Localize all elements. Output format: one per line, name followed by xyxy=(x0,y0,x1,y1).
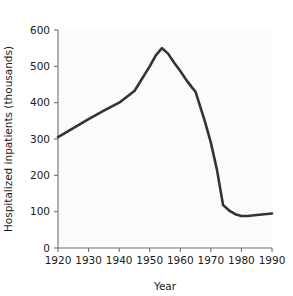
x-tick-label: 1950 xyxy=(136,254,163,266)
x-tick-label: 1980 xyxy=(228,254,255,266)
y-tick-label: 400 xyxy=(30,96,50,108)
y-axis-title: Hospitalized inpatients (thousands) xyxy=(2,46,14,232)
x-tick-label: 1930 xyxy=(75,254,102,266)
y-tick-label: 200 xyxy=(30,169,50,181)
x-tick-label: 1970 xyxy=(197,254,224,266)
line-chart-canvas: 0100200300400500600 19201930194019501960… xyxy=(0,0,293,296)
y-tick-label: 0 xyxy=(43,242,50,254)
y-axis-tick-labels: 0100200300400500600 xyxy=(30,24,50,254)
x-tick-label: 1940 xyxy=(106,254,133,266)
y-axis-tick-marks xyxy=(54,30,58,248)
x-axis-title: Year xyxy=(153,280,177,292)
y-tick-label: 600 xyxy=(30,24,50,36)
y-tick-label: 300 xyxy=(30,133,50,145)
x-tick-label: 1990 xyxy=(259,254,286,266)
chart-figure: 0100200300400500600 19201930194019501960… xyxy=(0,0,293,296)
x-axis-tick-marks xyxy=(58,248,272,252)
x-axis-tick-labels: 19201930194019501960197019801990 xyxy=(45,254,286,266)
x-tick-label: 1960 xyxy=(167,254,194,266)
y-tick-label: 500 xyxy=(30,60,50,72)
x-tick-label: 1920 xyxy=(45,254,72,266)
y-tick-label: 100 xyxy=(30,205,50,217)
